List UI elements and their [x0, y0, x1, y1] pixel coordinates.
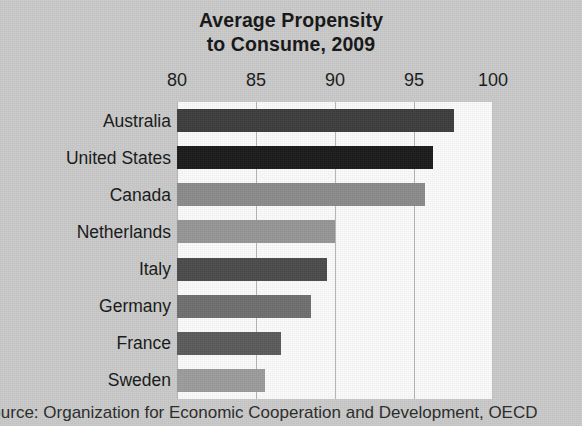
y-label-row: Sweden [0, 362, 171, 399]
y-label-row: United States [0, 139, 171, 176]
bar-row [177, 176, 493, 213]
category-label-germany: Germany [99, 295, 171, 317]
bar-united-states [177, 146, 433, 169]
source-note: Source: Organization for Economic Cooper… [0, 402, 582, 424]
bar-row [177, 362, 493, 399]
y-axis-category-labels: AustraliaUnited StatesCanadaNetherlandsI… [0, 102, 171, 399]
x-tick-label-85: 85 [246, 69, 266, 91]
y-label-row: France [0, 325, 171, 362]
bar-sweden [177, 369, 265, 392]
category-label-france: France [117, 332, 171, 354]
bar-italy [177, 258, 327, 281]
y-label-row: Germany [0, 288, 171, 325]
bar-canada [177, 183, 425, 206]
bar-row [177, 139, 493, 176]
bar-germany [177, 295, 311, 318]
chart-title: Average Propensity to Consume, 2009 [0, 8, 582, 56]
y-label-row: Australia [0, 102, 171, 139]
y-label-row: Netherlands [0, 213, 171, 250]
y-label-row: Italy [0, 251, 171, 288]
bar-row [177, 213, 493, 250]
bar-row [177, 325, 493, 362]
chart-title-line-1: Average Propensity [0, 8, 582, 32]
bar-row [177, 251, 493, 288]
x-tick-label-95: 95 [404, 69, 424, 91]
bar-row [177, 102, 493, 139]
bar-france [177, 332, 281, 355]
x-axis-tick-labels: 80859095100 [177, 69, 493, 95]
bar-chart-figure: Average Propensity to Consume, 2009 8085… [0, 0, 582, 426]
x-tick-label-100: 100 [478, 69, 508, 91]
x-tick-label-80: 80 [167, 69, 187, 91]
bar-row [177, 288, 493, 325]
plot-area [177, 102, 493, 399]
bar-australia [177, 109, 454, 132]
chart-title-line-2: to Consume, 2009 [0, 32, 582, 56]
category-label-australia: Australia [103, 110, 171, 132]
category-label-italy: Italy [139, 258, 171, 280]
bar-netherlands [177, 220, 335, 243]
y-label-row: Canada [0, 176, 171, 213]
x-tick-label-90: 90 [325, 69, 345, 91]
bars-layer [177, 102, 493, 399]
category-label-canada: Canada [110, 184, 171, 206]
category-label-sweden: Sweden [108, 369, 171, 391]
category-label-united-states: United States [66, 147, 171, 169]
category-label-netherlands: Netherlands [77, 221, 171, 243]
